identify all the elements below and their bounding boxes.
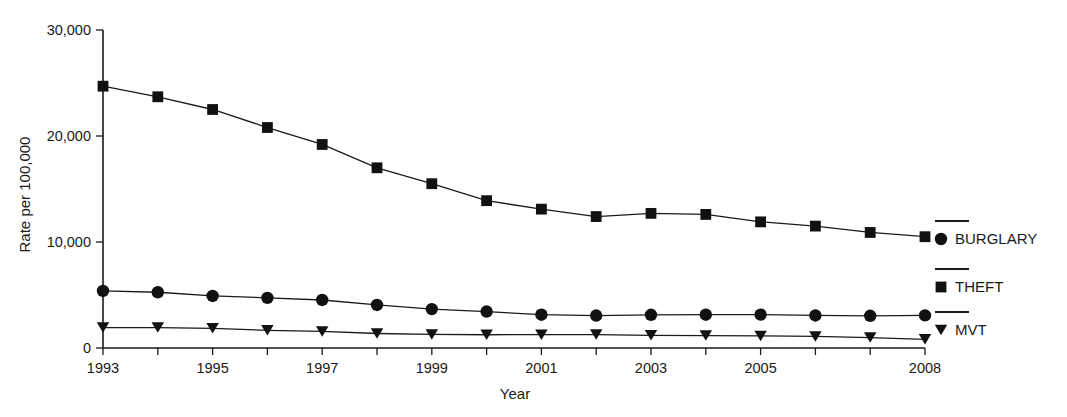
data-point — [865, 227, 876, 238]
data-point — [207, 104, 218, 115]
legend-item-mvt[interactable]: MVT — [935, 312, 987, 338]
x-axis: 19931995199719992001200320052008 — [87, 348, 941, 376]
data-point — [919, 309, 931, 321]
legend-label: MVT — [955, 321, 987, 338]
data-point — [700, 309, 712, 321]
legend-item-theft[interactable]: THEFT — [935, 269, 1003, 295]
series-layer — [97, 81, 932, 345]
data-point — [481, 195, 492, 206]
data-point — [261, 292, 273, 304]
data-point — [700, 209, 711, 220]
x-tick-label: 2005 — [744, 360, 776, 376]
data-point — [206, 290, 218, 302]
x-tick-label: 2001 — [525, 360, 557, 376]
series-mvt — [97, 322, 932, 344]
x-tick-label: 1993 — [87, 360, 119, 376]
data-point — [646, 208, 657, 219]
y-tick-label: 0 — [83, 340, 91, 356]
data-point — [372, 162, 383, 173]
series-theft — [98, 81, 931, 242]
data-point — [426, 178, 437, 189]
data-point — [152, 286, 164, 298]
legend-marker-triangle-down — [935, 325, 948, 336]
x-tick-label: 1995 — [196, 360, 228, 376]
data-point — [864, 310, 876, 322]
legend-marker-circle — [935, 233, 947, 245]
x-tick-label: 1999 — [416, 360, 448, 376]
legend-label: BURGLARY — [955, 230, 1037, 247]
data-point — [371, 299, 383, 311]
data-point — [754, 308, 766, 320]
data-point — [480, 305, 492, 317]
x-tick-label: 2003 — [635, 360, 667, 376]
series-burglary — [97, 285, 931, 322]
legend-label: THEFT — [955, 278, 1003, 295]
y-tick-label: 10,000 — [47, 234, 91, 250]
data-point — [536, 204, 547, 215]
data-point — [316, 294, 328, 306]
y-axis: 010,00020,00030,000 — [47, 22, 103, 356]
y-tick-label: 20,000 — [47, 128, 91, 144]
data-point — [426, 303, 438, 315]
y-tick-label: 30,000 — [47, 22, 91, 38]
data-point — [810, 221, 821, 232]
legend-item-burglary[interactable]: BURGLARY — [935, 221, 1037, 247]
data-point — [262, 122, 273, 133]
x-tick-label: 1997 — [306, 360, 338, 376]
data-point — [645, 309, 657, 321]
data-point — [590, 309, 602, 321]
x-tick-label: 2008 — [909, 360, 941, 376]
legend-marker-square — [936, 282, 947, 293]
data-point — [317, 139, 328, 150]
line-chart: 010,00020,00030,000 19931995199719992001… — [0, 0, 1067, 417]
data-point — [755, 216, 766, 227]
chart-canvas: 010,00020,00030,000 19931995199719992001… — [0, 0, 1067, 417]
data-point — [809, 309, 821, 321]
data-point — [152, 91, 163, 102]
data-point — [98, 81, 109, 92]
data-point — [920, 231, 931, 242]
y-axis-title: Rate per 100,000 — [16, 105, 33, 285]
data-point — [97, 285, 109, 297]
chart-legend: BURGLARYTHEFTMVT — [935, 221, 1038, 338]
data-point — [535, 309, 547, 321]
x-axis-title: Year — [0, 385, 1030, 402]
data-point — [591, 211, 602, 222]
